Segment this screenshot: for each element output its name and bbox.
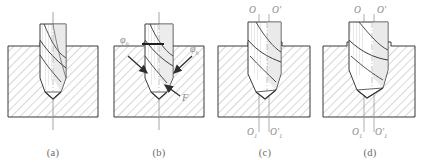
axis-o-prime-top-label: O′ bbox=[272, 5, 282, 15]
panel-c-caption: (c) bbox=[212, 147, 318, 158]
panel-c-drawing: O O′ O1 O′1 bbox=[212, 0, 318, 140]
panel-c: O O′ O1 O′1 (c) bbox=[212, 0, 318, 166]
panel-b-drawing: φh φh F bbox=[106, 0, 212, 140]
axis-o-top-label: O bbox=[354, 5, 361, 15]
axis-o-top-label: O bbox=[249, 5, 256, 15]
panel-a-caption: (a) bbox=[0, 147, 106, 158]
panel-d-caption: (d) bbox=[317, 147, 423, 158]
axis-o1-bottom-label: O1 bbox=[247, 127, 257, 139]
angle-phi-right-label: φh bbox=[190, 43, 199, 56]
panel-d-drawing: O O′ O1 O′1 bbox=[317, 0, 423, 140]
panel-d: O O′ O1 O′1 (d) bbox=[317, 0, 423, 166]
force-f-label: F bbox=[181, 92, 189, 103]
panel-a-drawing bbox=[0, 0, 106, 140]
angle-phi-left-label: φh bbox=[120, 34, 129, 47]
panel-b: φh φh F (b) bbox=[106, 0, 212, 166]
axis-o1-bottom-label: O1 bbox=[352, 127, 362, 139]
axis-o1-prime-bottom-label: O′1 bbox=[375, 127, 387, 139]
panel-b-caption: (b) bbox=[106, 147, 212, 158]
panel-a: (a) bbox=[0, 0, 106, 166]
axis-o1-prime-bottom-label: O′1 bbox=[270, 127, 282, 139]
drilling-stages-figure: (a) bbox=[0, 0, 423, 166]
axis-o-prime-top-label: O′ bbox=[377, 5, 387, 15]
twist-drill bbox=[40, 24, 66, 99]
